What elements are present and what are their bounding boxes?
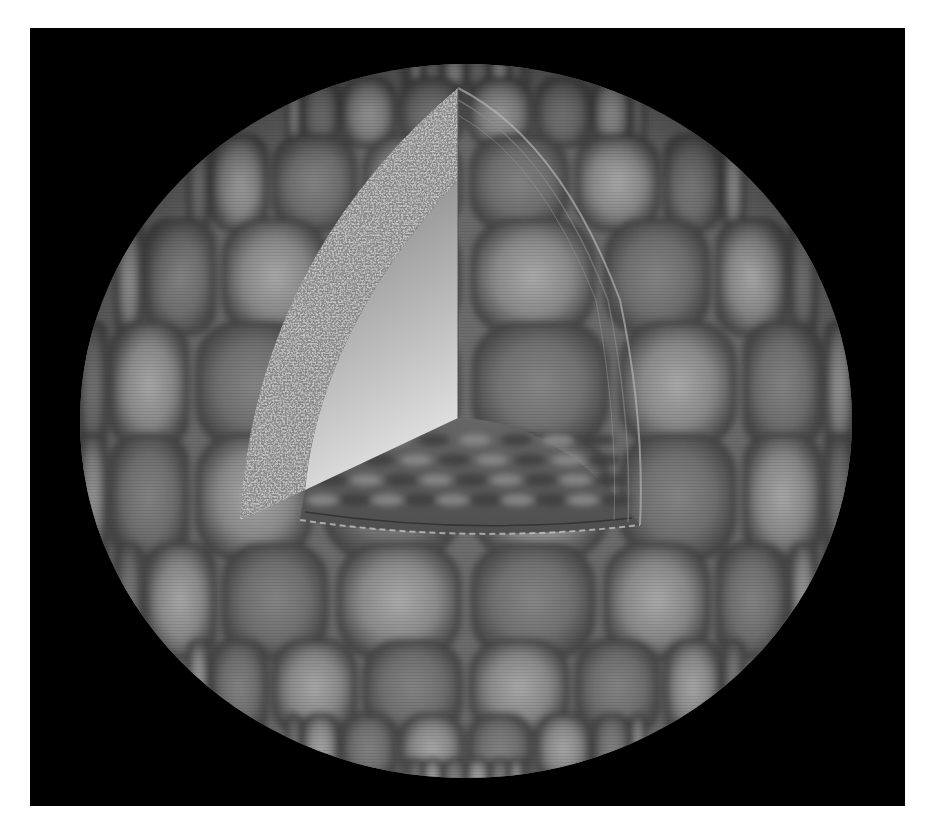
sphere-render: [0, 0, 928, 831]
